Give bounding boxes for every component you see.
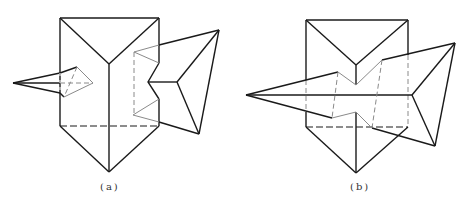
left-pyramid-a: [13, 67, 93, 97]
panel-b: [246, 20, 455, 173]
prism-a: [60, 18, 159, 172]
right-pyramid-a: [133, 30, 219, 134]
prism-b: [306, 20, 408, 173]
pyramid-b: [246, 43, 455, 146]
caption-b: (b): [350, 181, 370, 192]
panel-a: [13, 18, 219, 172]
diagram-canvas: [0, 0, 469, 208]
caption-a: (a): [100, 181, 120, 192]
